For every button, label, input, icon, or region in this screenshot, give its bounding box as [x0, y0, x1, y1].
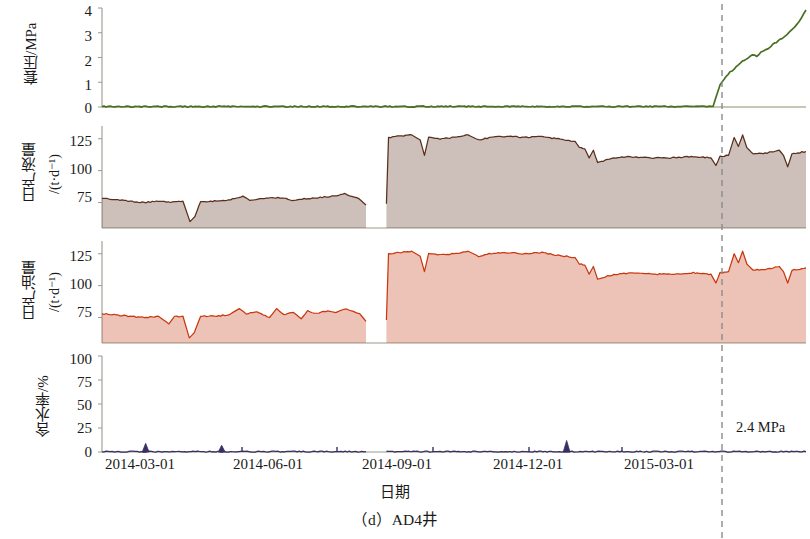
xtick-0: 2014-03-01: [78, 457, 202, 472]
xtick-1: 2014-06-01: [206, 457, 330, 472]
x-axis-label: 日期: [0, 485, 800, 500]
annotation-casing-pressure-value: 2.4 MPa: [736, 420, 785, 435]
xtick-3: 2014-12-01: [466, 457, 590, 472]
figure-ad4-well-production-chart: 套压/MPa 日产液量 /(t·d⁻¹) 日产油量 /(t·d⁻¹) 含水率/%…: [0, 0, 810, 539]
xtick-4: 2015-03-01: [597, 457, 721, 472]
xtick-2: 2014-09-01: [335, 457, 459, 472]
figure-caption: （d）AD4井: [0, 512, 800, 528]
